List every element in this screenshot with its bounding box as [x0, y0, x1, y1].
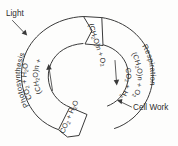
light-leader-line [13, 21, 25, 34]
cell-work-callout: Cell Work [117, 99, 169, 112]
light-callout: Light [6, 9, 27, 36]
cell-work-label: Cell Work [133, 103, 169, 112]
photosynthesis-arrow-head [46, 64, 52, 70]
light-label: Light [6, 9, 24, 18]
respiration-arrow-head [114, 80, 120, 86]
photosynthesis-arrow-shaft [49, 68, 53, 91]
respiration-arrow-shaft [115, 61, 117, 83]
diagram-canvas: Photosynthesis (CH2O)n + O2 CO2 + H2O Re… [0, 0, 178, 146]
ring-outline [21, 17, 152, 130]
inner-arc-left [48, 44, 83, 108]
carbon-cycle-diagram: Photosynthesis (CH2O)n + O2 CO2 + H2O Re… [0, 0, 178, 146]
